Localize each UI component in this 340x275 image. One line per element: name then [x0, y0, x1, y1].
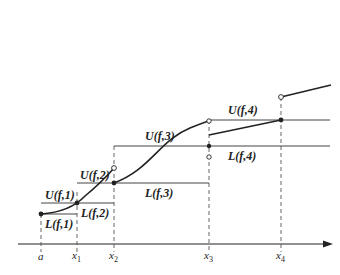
x-axis-arrow-icon — [323, 241, 333, 248]
label-L3: L(f,3) — [144, 186, 173, 200]
open-point-x3-right — [207, 155, 211, 159]
label-U1: U(f,1) — [45, 188, 75, 202]
open-point-x4 — [279, 95, 284, 100]
axis-label-x1: x1 — [71, 249, 81, 264]
axis-label-a: a — [38, 250, 44, 262]
point-x2 — [112, 181, 117, 186]
step-function-diagram: U(f,1) L(f,1) L(f,2) U(f,2) L(f,3) U(f,3… — [0, 0, 340, 275]
label-L1: L(f,1) — [44, 217, 73, 231]
curve-segment-3 — [209, 120, 281, 135]
point-x3 — [207, 144, 211, 148]
label-U3: U(f,3) — [145, 129, 175, 143]
open-point-x3-left — [207, 119, 211, 123]
axis-label-x3: x3 — [203, 249, 213, 264]
label-U4: U(f,4) — [228, 103, 258, 117]
point-x4 — [279, 118, 284, 123]
open-point-x2 — [112, 166, 117, 171]
point-x1 — [75, 201, 80, 206]
axis-label-x2: x2 — [108, 249, 118, 264]
curve-segment-4 — [281, 85, 331, 97]
label-U2: U(f,2) — [80, 168, 110, 182]
label-L4: L(f,4) — [227, 149, 256, 163]
label-L2: L(f,2) — [80, 206, 109, 220]
point-a — [39, 212, 44, 217]
axis-label-x4: x4 — [275, 249, 285, 264]
